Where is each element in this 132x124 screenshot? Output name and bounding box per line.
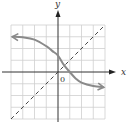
y-axis-arrow-icon (56, 10, 61, 17)
y-axis-label: y (54, 0, 61, 9)
x-axis-label: x (121, 67, 126, 77)
graph: x y 0 (0, 0, 132, 124)
origin-label: 0 (60, 75, 65, 84)
axes: x y 0 (2, 0, 126, 122)
x-axis-arrow-icon (109, 70, 116, 75)
